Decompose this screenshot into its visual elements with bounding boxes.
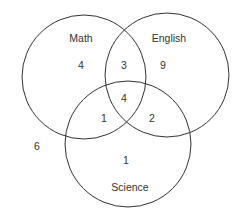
all-three-count: 4 <box>121 92 127 104</box>
math-english-count: 3 <box>121 59 127 71</box>
english-only-count: 9 <box>160 59 166 71</box>
math-label: Math <box>69 32 93 44</box>
english-label: English <box>152 32 187 44</box>
math-only-count: 4 <box>78 59 84 71</box>
outside-count: 6 <box>34 140 40 152</box>
math-science-count: 1 <box>101 112 107 124</box>
english-science-count: 2 <box>149 112 155 124</box>
science-only-count: 1 <box>123 154 129 166</box>
venn-diagram: Math English Science 4 3 9 4 1 2 6 1 <box>0 0 237 224</box>
science-label: Science <box>111 181 149 193</box>
